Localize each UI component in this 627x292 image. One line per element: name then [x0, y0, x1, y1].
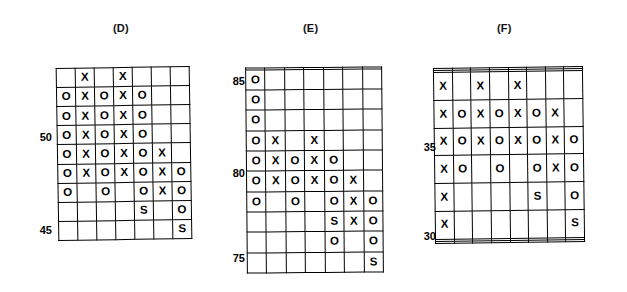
grid-cell: O	[95, 125, 114, 144]
grid-cell: X	[113, 86, 132, 105]
grid-cell	[344, 231, 364, 251]
grid-cell: O	[285, 151, 305, 171]
grid-cell	[452, 72, 471, 100]
grid-cell	[510, 210, 529, 238]
panel-d-title: (D)	[113, 22, 129, 34]
grid-cell	[59, 221, 78, 240]
grid-cell: O	[453, 155, 472, 183]
grid-cell	[324, 130, 344, 150]
grid-row: OOOXO	[58, 181, 191, 202]
grid-cell: O	[490, 155, 509, 183]
panel-e-grid-body: OOOOXXOXOXOOXOXOXOOOXOSXOOOS	[246, 67, 384, 273]
grid-cell: X	[304, 130, 324, 150]
grid-cell	[58, 202, 77, 221]
grid-cell: O	[363, 211, 383, 231]
grid-cell	[453, 183, 472, 211]
grid-cell	[454, 241, 473, 243]
grid-cell	[363, 150, 383, 170]
grid-cell: O	[325, 231, 345, 251]
panel-d-grid-wrapper: XXOXOXOOXOXOOXOXOOXOXOXOXOXOXOOOOXOSOS	[56, 66, 193, 241]
grid-cell: X	[508, 72, 527, 100]
grid-cell	[564, 99, 583, 127]
grid-cell	[323, 89, 343, 109]
grid-cell: O	[285, 171, 305, 191]
grid-cell: X	[509, 127, 528, 155]
grid-cell: X	[508, 99, 527, 127]
grid-cell	[472, 183, 491, 211]
grid-cell	[115, 201, 134, 220]
grid-cell: O	[95, 106, 114, 125]
grid-cell: O	[96, 163, 115, 182]
panel-e-axis-tick-80: 80	[219, 167, 245, 179]
grid-cell: X	[114, 125, 133, 144]
grid-cell: O	[324, 150, 344, 170]
grid-cell	[343, 89, 363, 109]
grid-cell: O	[56, 87, 75, 106]
grid-cell	[171, 124, 190, 143]
grid-cell	[547, 210, 566, 238]
grid-row: XOXOXOX	[434, 99, 583, 129]
grid-cell: O	[324, 191, 344, 211]
grid-cell: O	[247, 192, 267, 212]
grid-cell	[285, 90, 305, 110]
panel-d-axis-tick-45: 45	[26, 224, 52, 236]
panel-f-axis-tick-30: 30	[410, 230, 436, 242]
grid-row: O	[246, 109, 382, 131]
grid-cell: O	[490, 127, 509, 155]
grid-cell	[509, 155, 528, 183]
grid-cell: O	[246, 70, 266, 90]
grid-cell	[304, 89, 324, 109]
grid-cell: X	[344, 170, 364, 190]
panel-f: (F) 35 30 XXXXOXOXOXXOXOXOXOXOOOXOXSOXS	[410, 0, 627, 292]
grid-cell: O	[57, 126, 76, 145]
grid-cell	[472, 155, 491, 183]
grid-cell	[265, 110, 285, 130]
grid-cell	[304, 110, 324, 130]
grid-row: XXX	[433, 71, 582, 101]
grid-cell	[454, 211, 473, 239]
grid-cell	[305, 191, 325, 211]
grid-cell	[343, 109, 363, 129]
grid-cell	[491, 210, 510, 238]
grid-cell: O	[172, 162, 191, 181]
grid-cell	[528, 210, 547, 238]
grid-cell	[265, 90, 285, 110]
panel-f-grid-body: XXXXOXOXOXXOXOXOXOXOOOXOXSOXS	[433, 67, 584, 244]
grid-row: OXOXO	[57, 124, 190, 145]
grid-cell	[153, 201, 172, 220]
grid-cell: O	[490, 100, 509, 128]
grid-cell	[247, 232, 267, 252]
grid-cell	[472, 211, 491, 239]
grid-cell	[363, 109, 383, 129]
grid-cell: O	[565, 126, 584, 154]
grid-cell	[265, 69, 285, 89]
grid-cell	[510, 240, 529, 242]
grid-cell: O	[172, 181, 191, 200]
grid-cell: O	[527, 127, 546, 155]
grid-cell	[305, 211, 325, 231]
grid-cell: O	[133, 143, 152, 162]
grid-cell	[324, 110, 344, 130]
grid-cell: X	[433, 73, 452, 101]
grid-cell: X	[75, 87, 94, 106]
grid-cell	[94, 68, 113, 87]
grid-cell: X	[153, 162, 172, 181]
grid-cell: X	[152, 143, 171, 162]
grid-cell	[286, 252, 306, 273]
grid-cell: X	[434, 100, 453, 128]
grid-cell: O	[94, 87, 113, 106]
grid-cell	[362, 89, 382, 109]
grid-cell	[132, 67, 151, 86]
grid-row: XSO	[435, 182, 584, 212]
grid-cell	[77, 202, 96, 221]
grid-cell: X	[266, 130, 286, 150]
grid-cell: S	[528, 182, 547, 210]
grid-cell	[286, 212, 306, 232]
grid-cell	[323, 69, 343, 89]
grid-cell: X	[344, 211, 364, 231]
grid-cell	[325, 252, 345, 273]
grid-cell	[489, 72, 508, 100]
grid-row: OXX	[246, 130, 382, 152]
grid-cell: X	[115, 163, 134, 182]
grid-cell	[151, 86, 170, 105]
